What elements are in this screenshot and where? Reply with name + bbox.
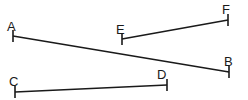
segment-ab bbox=[13, 36, 229, 72]
point-label-e: E bbox=[116, 23, 125, 36]
point-label-f: F bbox=[222, 3, 230, 16]
point-label-c: C bbox=[9, 75, 18, 88]
geometry-figure: A B C D E F bbox=[0, 0, 248, 100]
figure-canvas bbox=[0, 0, 248, 100]
point-label-b: B bbox=[224, 55, 233, 68]
point-label-d: D bbox=[157, 68, 166, 81]
point-label-a: A bbox=[7, 20, 16, 33]
segment-ef bbox=[122, 20, 228, 39]
segment-cd bbox=[15, 85, 167, 92]
